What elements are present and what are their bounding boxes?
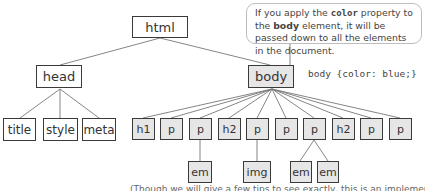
node-h1: h1 bbox=[132, 118, 155, 140]
node-em: em bbox=[290, 161, 312, 183]
node-h2: h2 bbox=[218, 118, 241, 140]
node-p: p bbox=[189, 118, 212, 140]
caption-text: (Though we will give a few tips to see e… bbox=[130, 184, 425, 191]
callout-note: If you apply the color property to the b… bbox=[246, 3, 422, 44]
node-title: title bbox=[3, 118, 36, 141]
node-body: body bbox=[248, 65, 294, 88]
node-p: p bbox=[246, 118, 269, 140]
css-rule: body {color: blue;} bbox=[308, 68, 417, 79]
callout-text: If you apply the bbox=[255, 7, 331, 18]
node-p: p bbox=[389, 118, 412, 140]
node-p: p bbox=[160, 118, 183, 140]
node-img: img bbox=[243, 161, 271, 183]
node-em: em bbox=[188, 161, 212, 183]
node-html: html bbox=[132, 16, 188, 38]
callout-code: color bbox=[331, 8, 358, 18]
node-head: head bbox=[36, 65, 82, 88]
node-style: style bbox=[43, 118, 78, 141]
node-p: p bbox=[275, 118, 298, 140]
node-p: p bbox=[360, 118, 383, 140]
node-h2: h2 bbox=[332, 118, 355, 140]
callout-bold: body bbox=[273, 20, 299, 31]
node-meta: meta bbox=[82, 118, 116, 141]
node-em: em bbox=[317, 161, 339, 183]
node-p: p bbox=[303, 118, 326, 140]
